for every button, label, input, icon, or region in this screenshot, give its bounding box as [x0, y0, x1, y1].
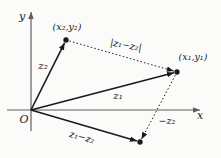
point-x2y2-label: (x₂,y₂) — [53, 22, 82, 32]
x-axis-label: x — [197, 110, 203, 121]
diagram-canvas — [0, 0, 221, 158]
complex-plane-difference-diagram: y x O (x₂,y₂) (x₁,y₁) z₂ z₁ |z₁−z₂| z₁−z… — [0, 0, 221, 158]
dashed-neg-z2-line — [142, 76, 176, 140]
point-x1y1-dot — [174, 69, 179, 74]
vector-z2-label: z₂ — [38, 61, 47, 71]
point-x2y2-dot — [63, 37, 68, 42]
point-x1y1-label: (x₁,y₁) — [179, 52, 208, 62]
vector-z1 — [31, 73, 174, 110]
neg-z2-label: −z₂ — [159, 116, 176, 126]
point-z1-minus-z2-dot — [137, 139, 142, 144]
vector-z1-label: z₁ — [113, 91, 122, 101]
origin-label: O — [19, 114, 28, 125]
y-axis-label: y — [19, 11, 25, 22]
vector-z2 — [31, 43, 65, 110]
